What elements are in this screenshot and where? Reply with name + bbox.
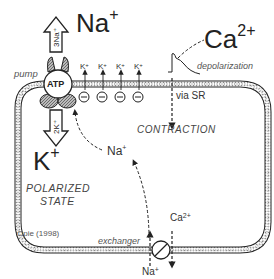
pump-label: pump [14,68,38,79]
contraction-label: CONTRACTION [137,124,216,135]
na-outside-label: Na+ [76,8,119,39]
atp-label: ATP [47,79,64,89]
na-to-pump-arrow [75,112,102,150]
three-na-up-arrow: 3Na⁺ [44,17,68,52]
k-channel-label: K+ [116,62,125,71]
k-channel-label: K+ [98,62,107,71]
negative-charges [79,92,143,102]
depolarization-label: depolarization [197,61,253,71]
two-k-down-arrow: 2K⁺ [44,110,68,146]
via-sr-label: via SR [176,90,205,101]
exchanger-label: exchanger [98,236,140,246]
k-channel-label: K+ [80,62,89,71]
na-inside-curve [134,162,149,238]
citation-label: Opie (1998) [17,229,59,238]
state-label: STATE [40,195,75,207]
ca-exchanger-label: Ca2+ [170,212,191,223]
na-inside-label: Na+ [107,144,126,158]
svg-text:2K⁺: 2K⁺ [52,120,61,134]
k-inside-label: K+ [33,146,60,177]
svg-text:3Na⁺: 3Na⁺ [52,28,61,47]
ca-outside-label: Ca2+ [204,24,256,55]
k-channel-label: K+ [134,62,143,71]
action-potential-waveform [168,54,200,75]
ca-dashed-curve [178,40,204,58]
polarized-label: POLARIZED [26,182,90,194]
na-outside-bottom-label: Na+ [142,266,159,277]
